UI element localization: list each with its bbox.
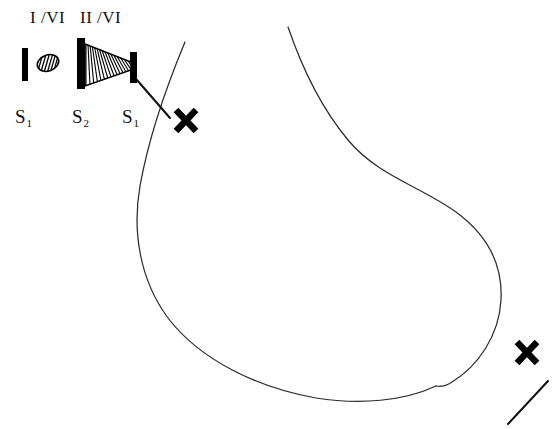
roman-label-1: I /VI — [30, 8, 65, 28]
roman-label-2: II /VI — [80, 8, 121, 28]
slit-label-subscript: 2 — [84, 117, 90, 129]
x-mark-lower-right — [517, 342, 537, 363]
slit-label-s1-right: S1 — [122, 106, 138, 128]
slit-bar-s1-left — [22, 48, 28, 81]
main-hand-drawn-contour — [137, 27, 501, 401]
x-marker-group — [176, 110, 537, 363]
slit-label-base: S — [122, 106, 133, 127]
pointer-line-lower — [508, 381, 548, 424]
hatched-beam-cone — [85, 44, 170, 86]
slit-label-base: S — [15, 106, 26, 127]
slit-label-s2: S2 — [72, 106, 88, 128]
slit-label-s1-left: S1 — [15, 106, 31, 128]
slit-bar-s2 — [77, 38, 85, 89]
figure-canvas: I /VI II /VI S1 S2 S1 — [0, 0, 553, 429]
slit-label-base: S — [72, 106, 83, 127]
slit-label-subscript: 1 — [134, 117, 140, 129]
slit-label-subscript: 1 — [27, 117, 33, 129]
pointer-line-upper — [137, 80, 170, 118]
x-mark-upper-left — [176, 110, 196, 131]
diagram-vector-layer — [0, 0, 553, 429]
hatched-lens-diamond — [35, 50, 65, 77]
pointer-lines-group — [137, 80, 548, 424]
